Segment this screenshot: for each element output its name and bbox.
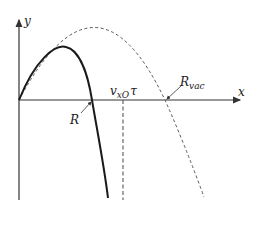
x-axis-label: x — [238, 85, 245, 99]
y-axis-label: y — [23, 14, 31, 28]
trajectory-diagram: y x R Rvac vxOτ — [0, 0, 257, 228]
r-pointer — [81, 102, 91, 113]
rvac-pointer — [167, 86, 181, 99]
rvac-label: Rvac — [179, 75, 205, 91]
r-label: R — [69, 113, 79, 127]
drag-trajectory-curve — [19, 47, 108, 198]
vacuum-trajectory-curve — [19, 28, 204, 198]
asymptote-label: vxOτ — [110, 84, 137, 100]
